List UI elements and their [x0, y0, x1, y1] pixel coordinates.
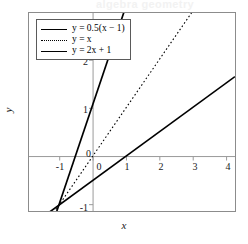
legend-line-swatch-dotted-icon [41, 35, 67, 45]
legend-line-swatch-solid-icon [41, 24, 67, 34]
figure: algebra geometry [0, 0, 248, 244]
legend-item-1: y = x [41, 34, 125, 45]
legend-label-2: y = 2x + 1 [72, 45, 111, 56]
x-tick-label-1: 1 [125, 161, 130, 172]
y-tick-label-1: 1 [83, 104, 88, 115]
x-tick-label-3: 3 [193, 161, 198, 172]
y-axis-label: y [2, 108, 14, 113]
legend: y = 0.5(x − 1) y = x y = 2x + 1 [36, 19, 131, 60]
x-tick-label-2: 2 [159, 161, 164, 172]
legend-label-0: y = 0.5(x − 1) [72, 23, 125, 34]
x-tick-label-4: 4 [226, 161, 231, 172]
x-axis-label: x [0, 219, 248, 231]
plot-area: -1 0 1 2 3 4 2 1 0 -1 y = 0.5(x − 1) y =… [28, 12, 236, 212]
legend-item-0: y = 0.5(x − 1) [41, 23, 125, 34]
y-tick-label--1: -1 [80, 202, 88, 213]
legend-item-2: y = 2x + 1 [41, 45, 125, 56]
y-tick-label-0: 0 [86, 148, 91, 159]
legend-line-swatch-solid-icon [41, 46, 67, 56]
background-bleed-text: algebra geometry [96, 0, 248, 11]
x-tick-label-0: 0 [97, 161, 102, 172]
x-tick-label--1: -1 [56, 161, 64, 172]
legend-label-1: y = x [72, 34, 92, 45]
series-line-y-equals-half-x-minus-1 [29, 77, 235, 211]
